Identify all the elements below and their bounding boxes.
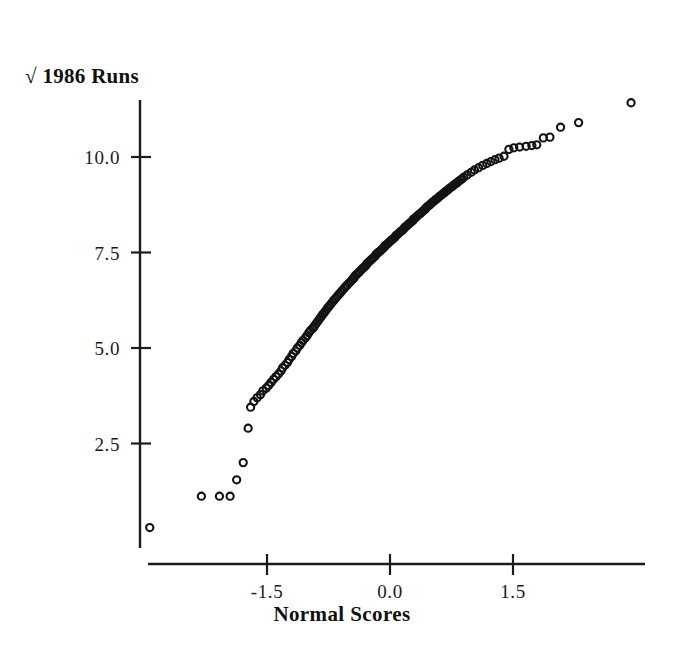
data-point xyxy=(216,493,223,500)
x-tick-label: 1.5 xyxy=(500,581,526,602)
data-point xyxy=(245,425,252,432)
data-point xyxy=(557,124,564,131)
x-axis-title: Normal Scores xyxy=(0,602,684,627)
y-tick-label: 7.5 xyxy=(94,243,120,264)
y-tick-label: 10.0 xyxy=(84,147,120,168)
data-point xyxy=(575,119,582,126)
qq-plot-figure: √ 1986 Runs 2.55.07.510.0 -1.50.01.5 Nor… xyxy=(0,0,684,659)
y-tick-label: 2.5 xyxy=(94,434,120,455)
data-point xyxy=(227,493,234,500)
data-point xyxy=(146,524,153,531)
data-point xyxy=(533,141,540,148)
data-point xyxy=(198,493,205,500)
data-point xyxy=(233,476,240,483)
data-point xyxy=(240,459,247,466)
data-point xyxy=(627,99,634,106)
x-tick-label: -1.5 xyxy=(251,581,283,602)
x-tick-group: -1.50.01.5 xyxy=(251,554,526,602)
plot-canvas: 2.55.07.510.0 -1.50.01.5 xyxy=(0,0,684,659)
x-tick-label: 0.0 xyxy=(377,581,403,602)
data-points-group xyxy=(146,99,635,531)
y-tick-label: 5.0 xyxy=(94,338,120,359)
